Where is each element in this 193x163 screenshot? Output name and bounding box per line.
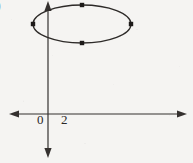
x-axis-arrow-left	[9, 110, 19, 117]
x-axis-group	[9, 110, 187, 117]
y-axis-arrow-down	[44, 148, 51, 158]
part-label: )	[0, 0, 1, 13]
y-axis-group	[44, 1, 51, 158]
figure-canvas: ) 0 2	[0, 0, 193, 163]
x-axis-arrow-right	[177, 110, 187, 117]
point-left-vertex	[31, 22, 35, 26]
point-right-vertex	[129, 22, 133, 26]
point-bottom-co-vertex	[80, 41, 84, 45]
x-tick-label-2: 2	[61, 113, 68, 126]
x-tick-label-0: 0	[37, 113, 44, 126]
coordinate-plot	[0, 0, 193, 163]
point-top-co-vertex	[80, 3, 84, 7]
